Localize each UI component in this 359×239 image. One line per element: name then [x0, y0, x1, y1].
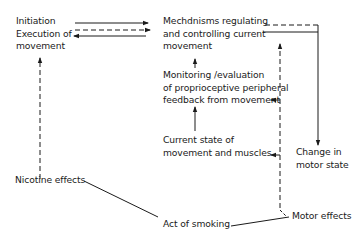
node-mechanisms-line3: movement [163, 40, 268, 53]
node-nicotine-effects: Nicotine effects [15, 174, 85, 187]
node-initiation: Initiation Execution of movement [16, 15, 72, 53]
line-smoking-to-nicotine [84, 181, 158, 217]
node-current-state-line1: Current state of [163, 134, 271, 147]
node-mechanisms: Mechdnisms regulating and controlling cu… [163, 15, 268, 53]
node-change-line2: motor state [296, 159, 349, 172]
node-current-state-line2: movement and muscles [163, 147, 271, 160]
node-mechanisms-line1: Mechdnisms regulating [163, 15, 268, 28]
node-mechanisms-line2: and controlling current [163, 28, 268, 41]
node-motor-effects: Motor effects [292, 210, 351, 223]
node-initiation-line3: movement [16, 40, 72, 53]
node-initiation-line1: Initiation [16, 15, 72, 28]
node-initiation-line2: Execution of [16, 28, 72, 41]
line-smoking-to-motor-effects [231, 217, 289, 226]
node-monitoring-line3: feedback from movement [163, 94, 289, 107]
node-change-line1: Change in [296, 146, 349, 159]
node-monitoring-line1: Monitoring /evaluation [163, 69, 289, 82]
node-monitoring: Monitoring /evaluation of proprioceptive… [163, 69, 289, 107]
node-change-motor-state: Change in motor state [296, 146, 349, 171]
node-act-of-smoking: Act of smoking [163, 218, 230, 231]
node-monitoring-line2: of proprioceptive peripheral [163, 82, 289, 95]
node-current-state: Current state of movement and muscles [163, 134, 271, 159]
